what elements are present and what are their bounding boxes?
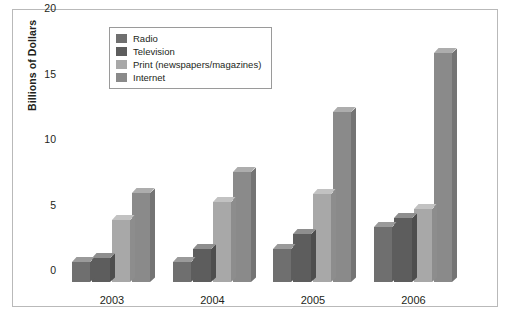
bar-side-face (211, 245, 216, 282)
chart-legend: RadioTelevisionPrint (newspapers/magazin… (109, 27, 272, 89)
y-axis-title: Billions of Dollars (26, 79, 38, 95)
bar-side-face (392, 222, 397, 282)
bar-top-face (394, 213, 417, 218)
legend-item-radio: Radio (116, 32, 261, 45)
y-axis-tick-label: 10 (44, 133, 56, 145)
bar-side-face (251, 167, 256, 282)
legend-item-internet: Internet (116, 71, 261, 84)
bar-top-face (374, 222, 397, 227)
bar-side-face (412, 213, 417, 282)
legend-item-print-newspapers-magazines: Print (newspapers/magazines) (116, 58, 261, 71)
bar-top-face (434, 48, 457, 53)
y-axis-tick-label: 20 (44, 2, 56, 14)
legend-swatch-icon (116, 34, 127, 43)
legend-item-label: Internet (133, 71, 165, 84)
y-axis-title-text: Billions of Dollars (26, 95, 38, 111)
legend-swatch-icon (116, 60, 127, 69)
y-axis-tick-label: 0 (50, 264, 56, 276)
y-axis-tick-label: 15 (44, 68, 56, 80)
x-axis-tick-label: 2005 (273, 294, 353, 306)
bar-side-face (150, 188, 155, 282)
x-axis-tick-label: 2006 (374, 294, 454, 306)
bar-group-2006: 2006 (374, 20, 462, 282)
bar-top-face (233, 167, 256, 172)
legend-swatch-icon (116, 47, 127, 56)
bar-side-face (351, 107, 356, 282)
legend-item-label: Print (newspapers/magazines) (133, 58, 261, 71)
bar-side-face (130, 216, 135, 282)
bar-side-face (432, 204, 437, 282)
bar-side-face (331, 190, 336, 282)
bar-front-face (72, 262, 90, 282)
x-axis-tick-label: 2003 (72, 294, 152, 306)
bar-front-face (173, 262, 191, 282)
y-axis-tick-label: 5 (50, 199, 56, 211)
legend-swatch-icon (116, 73, 127, 82)
legend-item-label: Television (133, 45, 175, 58)
bar-side-face (311, 229, 316, 282)
legend-item-label: Radio (133, 32, 158, 45)
x-axis-tick-label: 2004 (173, 294, 253, 306)
bar-side-face (231, 198, 236, 282)
bar-group-2005: 2005 (273, 20, 361, 282)
bar-side-face (291, 245, 296, 282)
bar-front-face (374, 227, 392, 282)
bar-side-face (452, 48, 457, 282)
bar-front-face (273, 249, 291, 282)
bar-top-face (414, 204, 437, 209)
legend-item-television: Television (116, 45, 261, 58)
figure: Billions of Dollars 20151050200320042005… (0, 0, 523, 320)
